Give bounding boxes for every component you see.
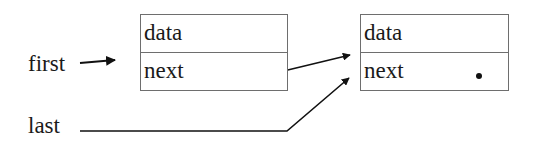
node-2-data-field: data: [361, 15, 508, 53]
node-1-data-field: data: [141, 15, 287, 53]
node-2: data next: [360, 14, 509, 91]
node-1-next-field: next: [141, 53, 287, 91]
null-dot-icon: [476, 73, 482, 79]
first-pointer-arrow: [80, 60, 115, 63]
linked-list-diagram: first last data next data next: [0, 0, 540, 144]
node-1: data next: [140, 14, 288, 91]
last-pointer-label: last: [28, 114, 60, 137]
node-2-data-label: data: [364, 21, 402, 44]
node-2-next-field: next: [361, 53, 508, 91]
node-1-data-label: data: [144, 21, 182, 44]
node-1-next-label: next: [144, 59, 184, 82]
first-pointer-label: first: [28, 52, 65, 75]
node-2-next-label: next: [364, 59, 404, 82]
